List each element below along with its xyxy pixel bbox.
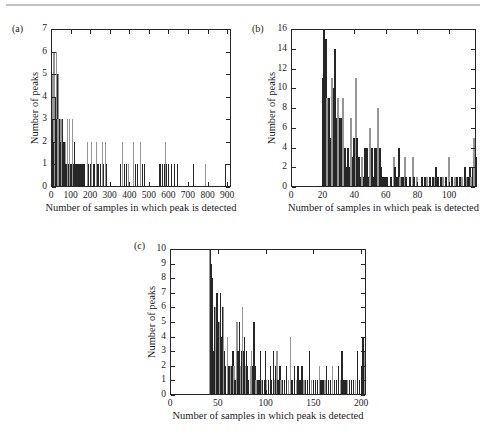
y-tick [361,366,365,367]
y-tick [361,337,365,338]
y-tick [171,293,175,294]
x-tick [361,250,362,254]
y-tick [171,366,175,367]
plot-box [170,249,366,395]
y-tick [171,264,175,265]
y-tick [361,249,365,250]
x-tick-label: 200 [354,399,368,409]
y-tick [361,322,365,323]
y-tick [171,395,175,396]
y-tick-label: 8 [161,273,166,283]
y-tick-label: 0 [161,390,166,400]
y-tick [361,278,365,279]
y-tick [171,351,175,352]
y-tick [361,264,365,265]
x-tick-label: 50 [213,399,223,409]
y-tick [171,380,175,381]
y-tick-label: 4 [161,332,166,342]
y-tick [361,380,365,381]
y-tick-label: 1 [161,376,166,386]
y-tick [171,307,175,308]
y-tick [361,395,365,396]
x-tick [170,250,171,254]
y-tick [361,293,365,294]
y-tick-label: 6 [161,303,166,313]
y-tick [171,322,175,323]
y-tick-label: 3 [161,346,166,356]
y-tick-label: 2 [161,361,166,371]
y-axis-label: Number of peaks [147,286,158,358]
y-tick-label: 9 [161,259,166,269]
y-tick-label: 5 [161,317,166,327]
x-tick [170,390,171,394]
x-tick [218,390,219,394]
x-tick [266,250,267,254]
x-tick-label: 150 [306,399,320,409]
y-tick-label: 7 [161,288,166,298]
x-tick [361,390,362,394]
x-tick [218,250,219,254]
x-tick [313,390,314,394]
x-tick [313,250,314,254]
x-tick-label: 100 [258,399,272,409]
histogram-panel-c: 050100150200012345678910Number of sample… [0,0,480,434]
y-tick [361,307,365,308]
y-tick [171,249,175,250]
y-tick [171,337,175,338]
y-tick [361,351,365,352]
y-tick [171,278,175,279]
x-tick-label: 0 [168,399,173,409]
figure: 010020030040050060070080090001234567Numb… [0,0,480,434]
panel-label: (c) [134,241,145,251]
x-axis-label: Number of samples in which peak is detec… [173,411,364,422]
x-tick [266,390,267,394]
y-tick-label: 10 [157,244,167,254]
